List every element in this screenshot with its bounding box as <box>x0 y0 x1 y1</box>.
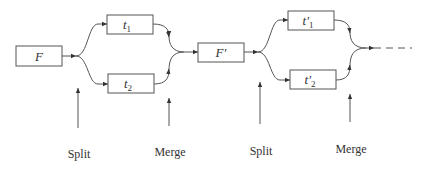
svg-text:F: F <box>34 49 44 64</box>
merge-edge-top-2 <box>334 20 366 48</box>
split-edge-top-2 <box>258 20 288 52</box>
split-label-2: Split <box>250 144 273 158</box>
node-f-prime: F′ <box>198 43 244 62</box>
split-merge-diagram: F t1 t2 F′ t′1 t′2 Split Merge Split <box>0 0 422 170</box>
node-f: F <box>16 46 62 66</box>
node-t1: t1 <box>107 15 153 34</box>
node-t2: t2 <box>108 74 154 93</box>
split-edge-top <box>76 24 107 56</box>
svg-text:F′: F′ <box>215 45 227 60</box>
merge-edge-bottom-2 <box>336 48 366 80</box>
merge-edge-top <box>153 24 184 52</box>
split-label-1: Split <box>68 147 91 161</box>
merge-edge-bottom <box>154 52 184 84</box>
node-t1-prime: t′1 <box>288 11 334 30</box>
merge-label-1: Merge <box>154 145 185 159</box>
merge-label-2: Merge <box>335 142 366 156</box>
split-edge-bottom <box>76 56 108 84</box>
node-t2-prime: t′2 <box>290 70 336 89</box>
split-edge-bottom-2 <box>258 52 290 80</box>
